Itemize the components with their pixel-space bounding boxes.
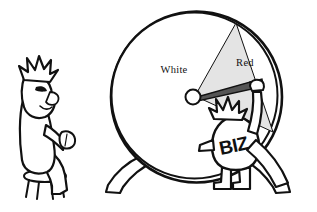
wheel-needle-pivot [186, 90, 201, 105]
wheel-sector-label-white: White [160, 64, 187, 75]
biz-hand-gripping-needle [250, 80, 264, 91]
wheel-sector-label-red: Red [236, 57, 254, 68]
stool-leg-1 [26, 180, 29, 197]
seated-observer [19, 56, 75, 199]
observer-hair-spikes [19, 56, 58, 82]
cartoon-canvas: White Red BIZ [0, 0, 317, 212]
stool-leg-2 [37, 182, 39, 199]
cartoon-illustration: White Red BIZ [0, 0, 317, 212]
